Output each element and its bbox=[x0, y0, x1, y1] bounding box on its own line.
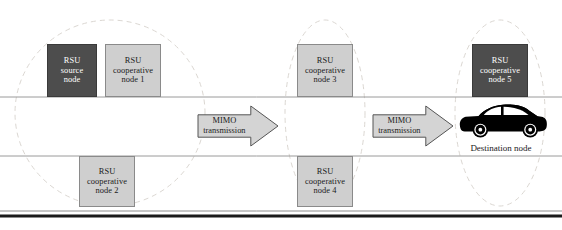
rsu-cooperative-node-1[interactable]: RSU cooperative node 1 bbox=[105, 44, 161, 97]
rsu-cooperative-node-4[interactable]: RSU cooperative node 4 bbox=[297, 156, 353, 207]
node-label-line: node 1 bbox=[121, 75, 144, 84]
node-label-line: cooperative bbox=[113, 66, 153, 75]
node-label-line: RSU bbox=[64, 56, 81, 65]
node-label-line: cooperative bbox=[305, 177, 345, 186]
node-label-line: node 4 bbox=[313, 186, 336, 195]
node-label-line: RSU bbox=[317, 56, 334, 65]
node-label-line: RSU bbox=[492, 56, 509, 65]
mimo-transmission-arrow-1-shape bbox=[198, 106, 278, 146]
mimo-arrows-group bbox=[198, 106, 453, 146]
node-label-line: cooperative bbox=[87, 177, 127, 186]
rsu-cooperative-node-2[interactable]: RSU cooperative node 2 bbox=[79, 156, 135, 207]
destination-vehicle-icon bbox=[460, 105, 547, 138]
destination-node-label: Destination node bbox=[458, 143, 544, 153]
rsu-cooperative-node-5[interactable]: RSU cooperative node 5 bbox=[472, 44, 528, 97]
node-label-line: cooperative bbox=[305, 66, 345, 75]
node-label-line: RSU bbox=[125, 56, 142, 65]
node-label-line: node bbox=[64, 75, 81, 84]
node-label-line: node 2 bbox=[95, 186, 118, 195]
node-label-line: cooperative bbox=[480, 66, 520, 75]
node-label-line: RSU bbox=[99, 167, 116, 176]
node-label-line: source bbox=[61, 66, 83, 75]
node-label-line: RSU bbox=[317, 167, 334, 176]
mimo-transmission-arrow-2-shape bbox=[373, 106, 453, 146]
rsu-cooperative-node-3[interactable]: RSU cooperative node 3 bbox=[297, 44, 353, 97]
vanet-mimo-diagram: RSU source node RSU cooperative node 1 R… bbox=[0, 0, 562, 230]
node-label-line: node 3 bbox=[313, 75, 336, 84]
node-label-line: node 5 bbox=[488, 75, 511, 84]
rsu-source-node[interactable]: RSU source node bbox=[47, 44, 97, 97]
